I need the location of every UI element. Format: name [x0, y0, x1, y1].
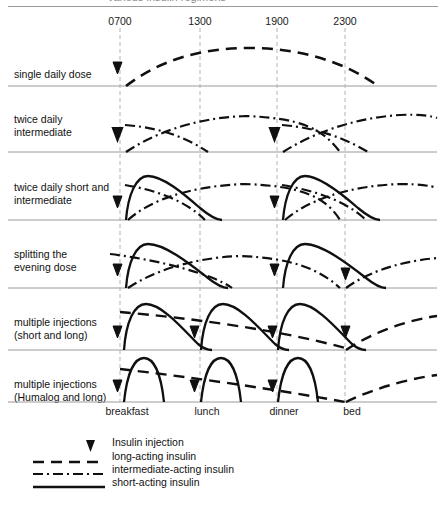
injection-marker-row3-1900 [270, 196, 279, 208]
injection-marker-row3-0700 [113, 196, 122, 208]
injection-marker-row5-0700 [113, 326, 122, 338]
meal-label-lunch: lunch [194, 405, 219, 417]
injection-marker-row6-0700 [113, 380, 122, 392]
injection-marker-row4-1900 [270, 264, 279, 276]
injection-marker-row4-2300 [341, 268, 350, 280]
injection-marker-row5-2300 [341, 326, 350, 338]
row-2-curves [113, 115, 437, 152]
row-4-curves [110, 244, 437, 288]
legend-label-insulin-injection: Insulin injection [112, 436, 184, 448]
legend: Insulin injection long-acting insulin in… [0, 434, 443, 504]
legend-label-short-acting: short-acting insulin [112, 476, 200, 488]
row-6-curves [113, 358, 437, 402]
injection-marker-row2-1900 [270, 128, 279, 140]
row-5-curves [113, 304, 437, 350]
time-gridlines [120, 28, 345, 402]
injection-marker-row6-1300 [190, 380, 199, 392]
legend-label-intermediate-acting: intermediate-acting insulin [112, 463, 234, 475]
row-3-curves [113, 176, 437, 220]
meal-label-bed: bed [343, 405, 361, 417]
legend-label-long-acting: long-acting insulin [112, 450, 196, 462]
insulin-curves-svg [0, 0, 443, 505]
injection-marker-row1-0700 [113, 62, 122, 74]
insulin-regimen-figure: various insulin regimens 0700 1300 1900 … [0, 0, 443, 505]
row-1-curves [113, 48, 378, 86]
meal-label-dinner: dinner [269, 405, 298, 417]
meal-label-breakfast: breakfast [105, 405, 148, 417]
injection-marker-row4-0700 [113, 264, 122, 276]
injection-marker-row2-0700 [113, 128, 122, 140]
row-baselines [8, 86, 437, 402]
